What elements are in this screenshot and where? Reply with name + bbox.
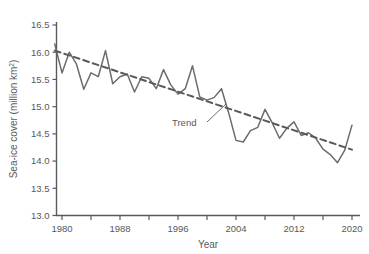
x-tick-label: 2012 bbox=[283, 223, 304, 234]
x-tick-label: 1988 bbox=[109, 223, 130, 234]
axes bbox=[56, 22, 360, 216]
y-axis-ticks: 13.013.514.014.515.015.516.016.5 bbox=[31, 19, 57, 221]
data-series-group bbox=[55, 44, 352, 163]
sea-ice-cover-line-chart: 13.013.514.014.515.015.516.016.5 1980198… bbox=[0, 0, 369, 254]
y-tick-label: 15.0 bbox=[31, 101, 50, 112]
y-tick-label: 14.5 bbox=[31, 128, 50, 139]
sea-ice-cover-line bbox=[55, 44, 352, 163]
y-tick-label: 14.0 bbox=[31, 155, 50, 166]
annotation-group: Trend bbox=[172, 104, 226, 128]
trend-annotation-label: Trend bbox=[172, 117, 196, 128]
y-axis-title: Sea-ice cover (million km2) bbox=[8, 60, 20, 179]
chart-figure: 13.013.514.014.515.015.516.016.5 1980198… bbox=[0, 0, 369, 254]
x-tick-label: 1996 bbox=[167, 223, 188, 234]
x-tick-label: 1980 bbox=[51, 223, 72, 234]
y-axis-title-main: Sea-ice cover (million km bbox=[8, 67, 19, 179]
trend-leader-line bbox=[207, 104, 226, 122]
y-tick-label: 16.0 bbox=[31, 47, 50, 58]
y-tick-label: 13.5 bbox=[31, 183, 50, 194]
y-tick-label: 15.5 bbox=[31, 74, 50, 85]
y-tick-label: 16.5 bbox=[31, 19, 50, 30]
y-axis-title-tail: ) bbox=[8, 60, 19, 63]
x-tick-label: 2020 bbox=[341, 223, 362, 234]
x-tick-label: 2004 bbox=[225, 223, 246, 234]
trend-line bbox=[55, 51, 352, 150]
x-axis-ticks: 198019881996200420122020 bbox=[51, 216, 362, 234]
x-axis-title: Year bbox=[198, 239, 219, 250]
y-tick-label: 13.0 bbox=[31, 210, 50, 221]
